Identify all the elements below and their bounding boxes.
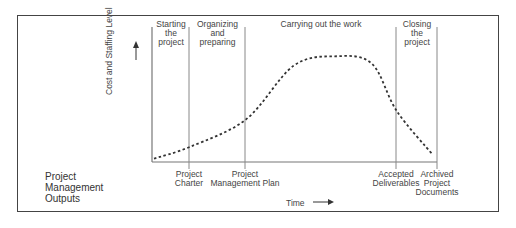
x-arrow-head-icon <box>328 199 334 205</box>
outputs-title-line: Outputs <box>45 193 103 204</box>
phase-label-closing: Closing the project <box>397 20 437 47</box>
phase-label-line: project <box>153 38 189 47</box>
outputs-title: Project Management Outputs <box>45 171 103 204</box>
phase-label-line: Carrying out the work <box>246 20 396 29</box>
phase-label-starting: Starting the project <box>153 20 189 47</box>
phase-label-line: preparing <box>190 38 245 47</box>
output-label-line: Documents <box>412 188 462 197</box>
phase-label-line: project <box>397 38 437 47</box>
phase-label-carrying-out: Carrying out the work <box>246 20 396 29</box>
x-axis-label: Time <box>286 198 305 208</box>
outputs-title-line: Project <box>45 171 103 182</box>
outputs-title-line: Management <box>45 182 103 193</box>
y-axis-label: Cost and Staffing Level <box>104 7 114 95</box>
cost-staffing-curve <box>154 56 433 159</box>
output-archived-project-documents: Archived Project Documents <box>412 170 462 197</box>
phase-label-organizing: Organizing and preparing <box>190 20 245 47</box>
y-arrow-head-icon <box>133 41 139 48</box>
output-label-line: Management Plan <box>205 179 285 188</box>
output-project-management-plan: Project Management Plan <box>205 170 285 188</box>
